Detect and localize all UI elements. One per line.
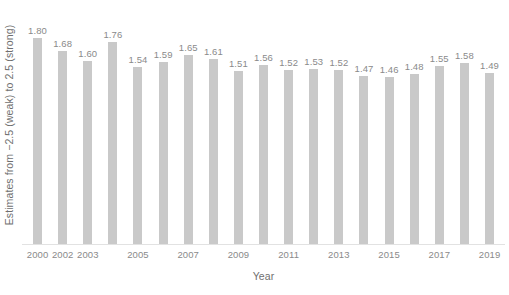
bar-group: 1.55 — [427, 4, 452, 244]
bar — [410, 74, 419, 244]
bar-value-label: 1.65 — [179, 42, 198, 53]
bar-group: 1.60 — [75, 4, 100, 244]
bar-value-label: 1.48 — [405, 61, 424, 72]
x-tick-label — [251, 248, 276, 262]
bar-value-label: 1.47 — [355, 63, 374, 74]
bar-group: 1.46 — [377, 4, 402, 244]
bar-value-label: 1.59 — [154, 49, 173, 60]
x-tick-label — [301, 248, 326, 262]
bar-value-label: 1.53 — [304, 56, 323, 67]
bar — [83, 61, 92, 244]
bar-group: 1.47 — [351, 4, 376, 244]
bar — [234, 71, 243, 244]
bar — [209, 59, 218, 244]
plot-area: 1.801.681.601.761.541.591.651.611.511.56… — [22, 4, 505, 244]
x-tick-label — [151, 248, 176, 262]
x-axis-title: Year — [22, 270, 505, 282]
bar-value-label: 1.46 — [380, 64, 399, 75]
bar-group: 1.51 — [226, 4, 251, 244]
x-tick-label: 2000 — [25, 248, 50, 262]
bar-value-label: 1.76 — [103, 29, 122, 40]
bar-group: 1.59 — [151, 4, 176, 244]
x-tick-label: 2007 — [176, 248, 201, 262]
bar — [33, 38, 42, 244]
bar-value-label: 1.58 — [455, 50, 474, 61]
bar-value-label: 1.61 — [204, 46, 223, 57]
x-tick-label: 2003 — [75, 248, 100, 262]
bar — [334, 70, 343, 244]
x-tick-label: 2019 — [477, 248, 502, 262]
bar — [460, 63, 469, 244]
bar — [108, 42, 117, 244]
bar-group: 1.52 — [326, 4, 351, 244]
bar — [485, 73, 494, 244]
bar — [133, 67, 142, 244]
bar — [284, 70, 293, 244]
x-axis-line — [22, 244, 505, 245]
bar-group: 1.49 — [477, 4, 502, 244]
bar — [58, 51, 67, 244]
x-tick-label — [402, 248, 427, 262]
bar-group: 1.80 — [25, 4, 50, 244]
x-tick-label — [100, 248, 125, 262]
x-axis-tick-labels: 2000200220032005200720092011201320152017… — [22, 248, 505, 262]
bar-value-label: 1.55 — [430, 53, 449, 64]
bar-chart: Estimates from −2.5 (weak) to 2.5 (stron… — [0, 0, 509, 295]
x-tick-label — [452, 248, 477, 262]
bar-value-label: 1.54 — [129, 54, 148, 65]
bar-group: 1.52 — [276, 4, 301, 244]
bar-group: 1.53 — [301, 4, 326, 244]
bar-group: 1.56 — [251, 4, 276, 244]
bar-value-label: 1.52 — [279, 57, 298, 68]
bar-group: 1.48 — [402, 4, 427, 244]
bar — [309, 69, 318, 244]
bar-group: 1.76 — [100, 4, 125, 244]
x-tick-label — [201, 248, 226, 262]
bar-group: 1.68 — [50, 4, 75, 244]
bar — [159, 62, 168, 244]
bar-value-label: 1.56 — [254, 52, 273, 63]
bars-layer: 1.801.681.601.761.541.591.651.611.511.56… — [22, 4, 505, 244]
bar — [435, 66, 444, 244]
x-tick-label: 2002 — [50, 248, 75, 262]
bar-value-label: 1.68 — [53, 38, 72, 49]
x-tick-label: 2009 — [226, 248, 251, 262]
x-tick-label — [351, 248, 376, 262]
bar-value-label: 1.49 — [480, 60, 499, 71]
bar-group: 1.61 — [201, 4, 226, 244]
bar-value-label: 1.60 — [78, 48, 97, 59]
x-tick-label: 2013 — [326, 248, 351, 262]
x-tick-label: 2005 — [125, 248, 150, 262]
bar-value-label: 1.52 — [329, 57, 348, 68]
bar-value-label: 1.80 — [28, 25, 47, 36]
bar — [259, 65, 268, 244]
bar — [184, 55, 193, 244]
x-tick-label: 2011 — [276, 248, 301, 262]
x-tick-label: 2017 — [427, 248, 452, 262]
y-axis-title: Estimates from −2.5 (weak) to 2.5 (stron… — [0, 5, 18, 245]
bar-group: 1.65 — [176, 4, 201, 244]
bar — [385, 77, 394, 244]
bar-value-label: 1.51 — [229, 58, 248, 69]
x-tick-label: 2015 — [377, 248, 402, 262]
bar — [359, 76, 368, 245]
bar-group: 1.54 — [125, 4, 150, 244]
bar-group: 1.58 — [452, 4, 477, 244]
